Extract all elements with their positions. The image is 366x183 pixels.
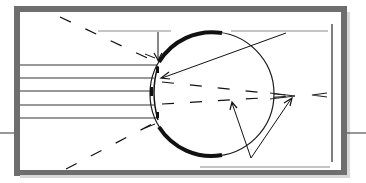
sclera-bottom-band — [159, 127, 222, 156]
cornea-arc — [154, 66, 158, 120]
iris-top — [156, 67, 159, 73]
chevron-left-icon — [312, 93, 327, 97]
parallel-rays — [20, 65, 157, 118]
arrow-down-icon — [154, 32, 162, 60]
eye-diagram — [0, 0, 366, 183]
sclera-top-band — [159, 32, 222, 62]
iris-bottom — [156, 112, 159, 118]
lens — [150, 87, 153, 96]
arrow-up-right-icon — [251, 98, 292, 158]
diagram-stage: eye-optics-diagram — [0, 0, 366, 183]
outer-frame — [17, 9, 350, 178]
